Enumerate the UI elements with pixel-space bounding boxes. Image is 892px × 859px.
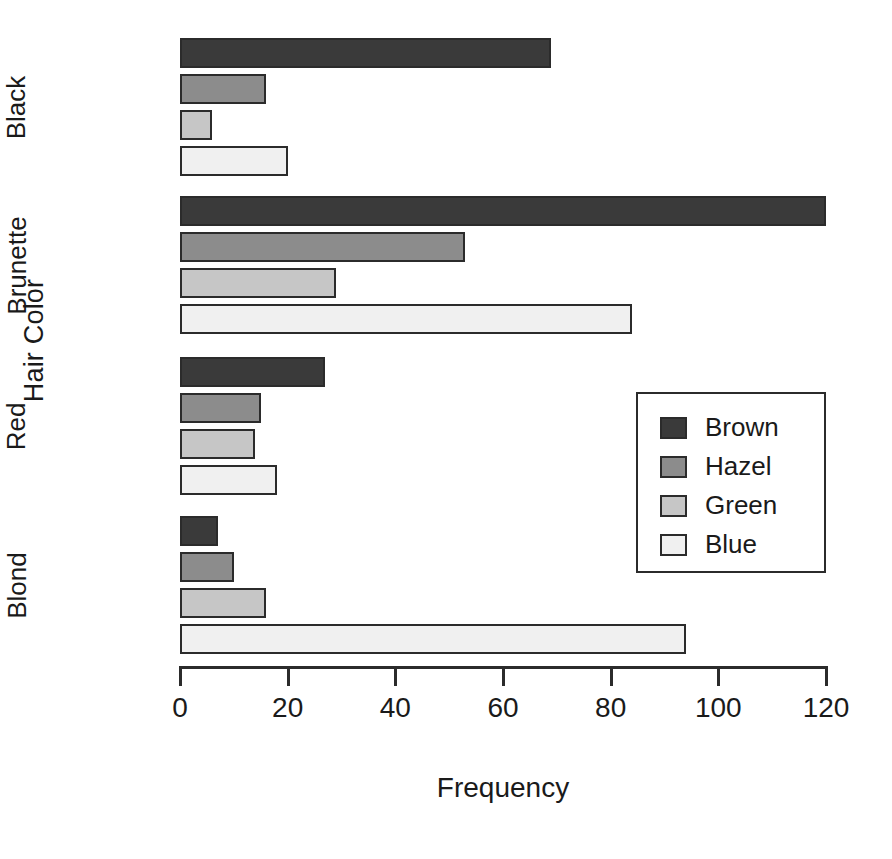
bar-red-green (180, 429, 255, 459)
x-axis-tick-label-80: 80 (566, 692, 656, 724)
bar-blond-blue (180, 624, 686, 654)
x-axis-tick-label-40: 40 (350, 692, 440, 724)
bar-red-brown (180, 357, 325, 387)
legend-swatch-hazel (660, 456, 687, 478)
legend-swatch-green (660, 495, 687, 517)
legend-label-blue: Blue (705, 529, 757, 560)
x-axis-tick-80 (610, 666, 613, 686)
legend-swatch-brown (660, 417, 687, 439)
bar-blond-hazel (180, 552, 234, 582)
bar-black-green (180, 110, 212, 140)
bar-blond-brown (180, 516, 218, 546)
x-axis-tick-label-0: 0 (135, 692, 225, 724)
legend-item-hazel: Hazel (638, 447, 824, 486)
bar-blond-green (180, 588, 266, 618)
x-axis-tick-label-20: 20 (243, 692, 333, 724)
legend-label-brown: Brown (705, 412, 779, 443)
bar-brunette-brown (180, 196, 826, 226)
legend-label-green: Green (705, 490, 777, 521)
x-axis-tick-120 (825, 666, 828, 686)
legend-item-brown: Brown (638, 408, 824, 447)
x-axis-tick-0 (179, 666, 182, 686)
legend-item-blue: Blue (638, 525, 824, 564)
bar-black-brown (180, 38, 551, 68)
legend-swatch-blue (660, 534, 687, 556)
legend-label-hazel: Hazel (705, 451, 771, 482)
bar-brunette-blue (180, 304, 632, 334)
bar-red-hazel (180, 393, 261, 423)
x-axis-tick-20 (287, 666, 290, 686)
x-axis-tick-60 (502, 666, 505, 686)
bar-chart-figure: Hair Color BlackBrunetteRedBlond 0204060… (0, 0, 892, 859)
x-axis-tick-40 (394, 666, 397, 686)
x-axis-tick-label-60: 60 (458, 692, 548, 724)
bar-black-hazel (180, 74, 266, 104)
x-axis-tick-label-100: 100 (673, 692, 763, 724)
legend: BrownHazelGreenBlue (636, 392, 826, 573)
bar-brunette-hazel (180, 232, 465, 262)
bar-red-blue (180, 465, 277, 495)
legend-item-green: Green (638, 486, 824, 525)
bar-black-blue (180, 146, 288, 176)
x-axis-tick-label-120: 120 (781, 692, 871, 724)
x-axis-tick-100 (717, 666, 720, 686)
bar-brunette-green (180, 268, 336, 298)
x-axis-title: Frequency (180, 772, 826, 804)
